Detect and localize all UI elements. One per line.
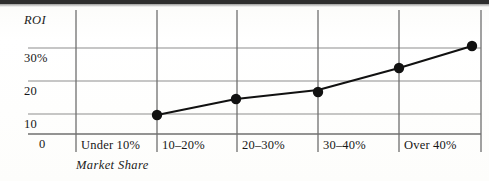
data-point	[467, 41, 477, 51]
y-axis-title: ROI	[24, 13, 46, 28]
chart-figure: ROI Market Share 30% 20 10 0 Under 10% 1…	[0, 0, 489, 181]
data-point	[152, 110, 162, 120]
y-tick-label-30: 30%	[24, 51, 48, 66]
x-tick-label-under-10: Under 10%	[81, 138, 140, 153]
x-tick-label-20-30: 20–30%	[242, 138, 285, 153]
x-tick-label-30-40: 30–40%	[323, 138, 366, 153]
data-point	[313, 87, 323, 97]
data-point	[231, 94, 241, 104]
horizontal-gridlines	[28, 48, 481, 134]
y-tick-label-0: 0	[39, 137, 45, 152]
y-tick-label-20: 20	[24, 84, 37, 99]
x-tick-label-over-40: Over 40%	[404, 138, 457, 153]
data-point	[394, 63, 404, 73]
x-axis-title: Market Share	[76, 158, 149, 173]
chart-plot-area	[0, 0, 489, 181]
y-tick-label-10: 10	[24, 117, 37, 132]
x-tick-label-10-20: 10–20%	[162, 138, 205, 153]
